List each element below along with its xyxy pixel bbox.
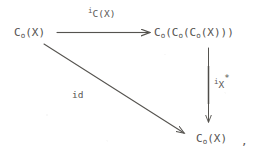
arrow-label-i-x-star-asterisk: * [224, 73, 229, 83]
node-triple-inner: (X))) [201, 26, 234, 39]
arrow-diagonal-id [44, 44, 184, 133]
arrow-label-i-cx: iC(X) [88, 7, 115, 19]
node-target-base: C [196, 132, 203, 145]
diagram-canvas: Co(X) Co(Co(Co(X))) Co(X) , iC(X) iX* id [0, 0, 262, 160]
node-source-base: C [14, 26, 21, 39]
node-target: Co(X) [196, 133, 227, 146]
node-triple-paren-open-2: ( [183, 26, 190, 39]
node-source-argument: (X) [25, 26, 45, 39]
node-source: Co(X) [14, 27, 45, 40]
node-triple: Co(Co(Co(X))) [154, 27, 234, 40]
trailing-comma: , [241, 135, 248, 148]
node-triple-paren-open-1: ( [165, 26, 172, 39]
node-triple-base-1: C [154, 26, 161, 39]
arrow-label-i-x-star: iX* [214, 74, 230, 90]
node-target-argument: (X) [207, 132, 227, 145]
arrow-label-id-text: id [72, 89, 83, 100]
arrow-label-id: id [72, 90, 83, 100]
arrow-label-i-cx-base: C(X) [93, 8, 116, 19]
